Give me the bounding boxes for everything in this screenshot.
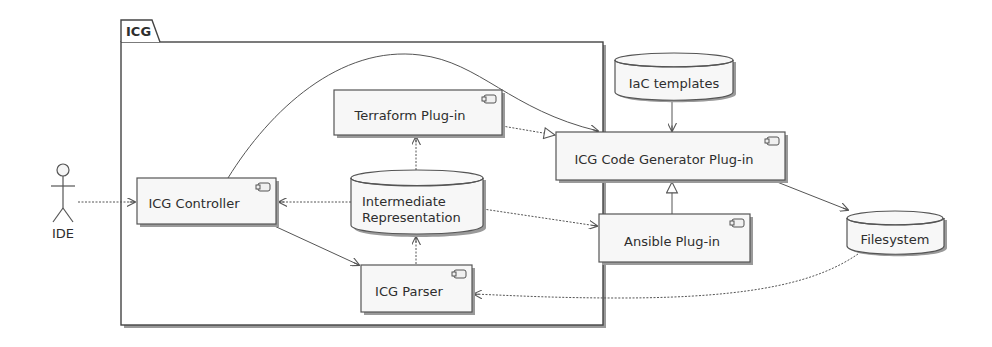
component-icg-controller[interactable]: ICG Controller <box>137 178 279 227</box>
component-icon <box>256 183 270 191</box>
database-label: Filesystem <box>861 232 930 247</box>
component-icg-parser[interactable]: ICG Parser <box>361 265 475 315</box>
actor-ide[interactable]: IDE <box>51 164 75 241</box>
database-filesystem[interactable]: Filesystem <box>847 211 947 256</box>
package-label: ICG <box>126 24 151 39</box>
actor-icon <box>51 164 75 222</box>
component-label: ICG Parser <box>375 284 443 299</box>
component-label: ICG Controller <box>148 196 240 211</box>
component-icon <box>730 219 744 227</box>
database-label-line1: Intermediate <box>362 194 446 209</box>
component-icon <box>482 95 496 103</box>
component-icon <box>452 270 466 278</box>
component-label: Ansible Plug-in <box>624 234 720 249</box>
component-icg-code-generator-plugin[interactable]: ICG Code Generator Plug-in <box>556 132 788 183</box>
actor-label: IDE <box>52 226 74 241</box>
database-iac-templates[interactable]: IaC templates <box>615 53 736 102</box>
database-intermediate-representation[interactable]: Intermediate Representation <box>351 170 486 237</box>
component-diagram: ICG IDE <box>0 0 992 347</box>
database-label: IaC templates <box>629 76 720 91</box>
edge-codegen-fs <box>772 180 848 210</box>
component-label: Terraform Plug-in <box>353 108 465 123</box>
component-label: ICG Code Generator Plug-in <box>574 152 753 167</box>
database-label-line2: Representation <box>362 210 461 225</box>
component-ansible-plugin[interactable]: Ansible Plug-in <box>599 214 753 265</box>
component-terraform-plugin[interactable]: Terraform Plug-in <box>334 90 505 138</box>
component-icon <box>765 137 779 145</box>
